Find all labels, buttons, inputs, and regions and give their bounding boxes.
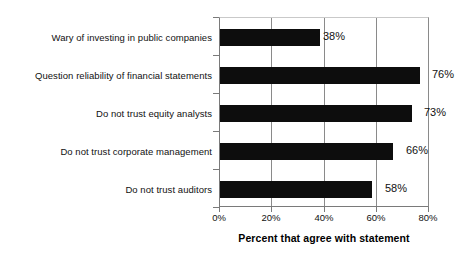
x-axis-label-0: 0% bbox=[199, 212, 239, 224]
x-axis-title: Percent that agree with statement bbox=[219, 232, 429, 244]
bar-chart: Wary of investing in public companies Qu… bbox=[0, 0, 475, 255]
category-label-4: Do not trust auditors bbox=[0, 184, 212, 195]
bar-value-4: 58% bbox=[385, 182, 407, 195]
bar-2 bbox=[220, 105, 412, 122]
category-axis-labels: Wary of investing in public companies Qu… bbox=[0, 17, 212, 207]
plot-area bbox=[219, 17, 429, 207]
y-axis-tick-4 bbox=[213, 169, 219, 170]
bar-1 bbox=[220, 67, 420, 84]
x-axis-label-2: 40% bbox=[304, 212, 344, 224]
bar-4 bbox=[220, 181, 372, 198]
x-axis-label-1: 20% bbox=[251, 212, 291, 224]
bar-0 bbox=[220, 29, 320, 46]
bar-value-2: 73% bbox=[424, 106, 446, 119]
bar-value-3: 66% bbox=[406, 144, 428, 157]
bar-value-0: 38% bbox=[323, 30, 345, 43]
x-axis-label-4: 80% bbox=[408, 212, 448, 224]
category-label-2: Do not trust equity analysts bbox=[0, 108, 212, 119]
y-axis-tick-1 bbox=[213, 55, 219, 56]
category-label-1: Question reliability of financial statem… bbox=[0, 70, 212, 81]
bar-3 bbox=[220, 143, 393, 160]
category-label-3: Do not trust corporate management bbox=[0, 146, 212, 157]
category-label-0: Wary of investing in public companies bbox=[0, 32, 212, 43]
y-axis-tick-3 bbox=[213, 131, 219, 132]
y-axis-tick-0 bbox=[213, 17, 219, 18]
bar-value-1: 76% bbox=[432, 68, 454, 81]
x-axis-label-3: 60% bbox=[356, 212, 396, 224]
y-axis-tick-2 bbox=[213, 93, 219, 94]
